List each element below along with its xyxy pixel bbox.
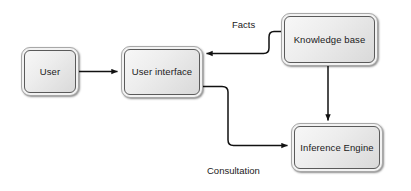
node-user-label: User [40, 67, 60, 77]
node-knowledge-base[interactable]: Knowledge base [281, 13, 378, 66]
node-user-body: User [24, 50, 76, 93]
diagram-canvas: User User interface Knowledge base Infer… [0, 0, 411, 191]
edge-knowledge-base-to-user-interface [207, 32, 282, 54]
node-inference-engine-body: Inference Engine [294, 126, 380, 169]
edge-label-consultation: Consultation [207, 166, 260, 176]
node-user-interface-label: User interface [132, 67, 193, 77]
node-knowledge-base-body: Knowledge base [284, 16, 375, 63]
node-user-interface[interactable]: User interface [121, 46, 203, 98]
edge-user-interface-to-inference-engine [203, 87, 288, 146]
node-knowledge-base-label: Knowledge base [294, 35, 366, 45]
edge-label-facts: Facts [232, 20, 255, 30]
node-user-interface-body: User interface [124, 49, 200, 95]
node-inference-engine-label: Inference Engine [300, 143, 373, 153]
node-user[interactable]: User [21, 47, 79, 96]
node-inference-engine[interactable]: Inference Engine [291, 123, 383, 172]
